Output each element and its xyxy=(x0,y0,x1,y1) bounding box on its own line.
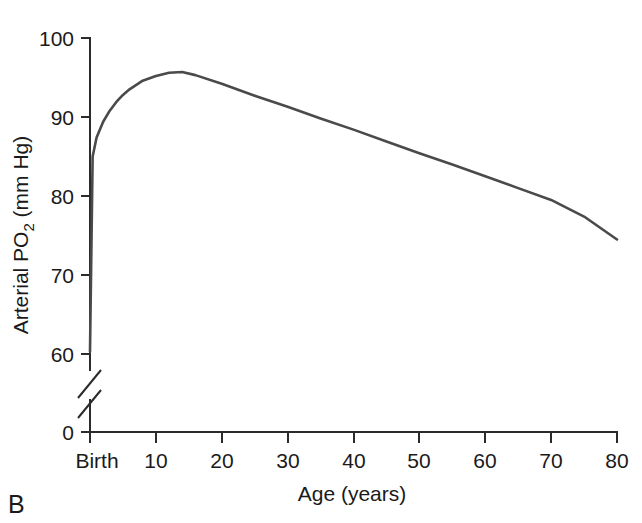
svg-text:Arterial PO2 (mm Hg): Arterial PO2 (mm Hg) xyxy=(9,136,37,335)
x-tick-label-10: 10 xyxy=(144,449,167,472)
panel-label: B xyxy=(8,490,25,518)
figure-panel-b: 100 90 80 70 60 0 Birth 10 20 30 40 50 6… xyxy=(0,0,642,523)
y-tick-label-90: 90 xyxy=(51,106,74,129)
x-tick-label-20: 20 xyxy=(210,449,233,472)
y-tick-label-100: 100 xyxy=(39,27,74,50)
y-tick-label-60: 60 xyxy=(51,343,74,366)
y-axis-ticks xyxy=(81,38,90,432)
y-axis-title-post: (mm Hg) xyxy=(9,136,32,224)
x-tick-label-50: 50 xyxy=(407,449,430,472)
y-tick-label-0: 0 xyxy=(62,421,74,444)
y-tick-label-70: 70 xyxy=(51,264,74,287)
y-axis-title-sub: 2 xyxy=(20,223,37,231)
x-tick-label-70: 70 xyxy=(539,449,562,472)
x-tick-label-birth: Birth xyxy=(75,449,118,472)
y-axis-title-pre: Arterial PO xyxy=(9,232,32,335)
data-curve-arterial-po2 xyxy=(90,72,617,352)
x-tick-label-30: 30 xyxy=(276,449,299,472)
chart-canvas: 100 90 80 70 60 0 Birth 10 20 30 40 50 6… xyxy=(0,0,642,523)
x-tick-label-60: 60 xyxy=(473,449,496,472)
y-tick-label-80: 80 xyxy=(51,185,74,208)
x-tick-label-40: 40 xyxy=(342,449,365,472)
x-tick-label-80: 80 xyxy=(605,449,628,472)
y-axis-title: Arterial PO2 (mm Hg) xyxy=(9,136,37,335)
x-axis-title: Age (years) xyxy=(298,482,407,505)
x-axis-ticks xyxy=(90,432,617,443)
